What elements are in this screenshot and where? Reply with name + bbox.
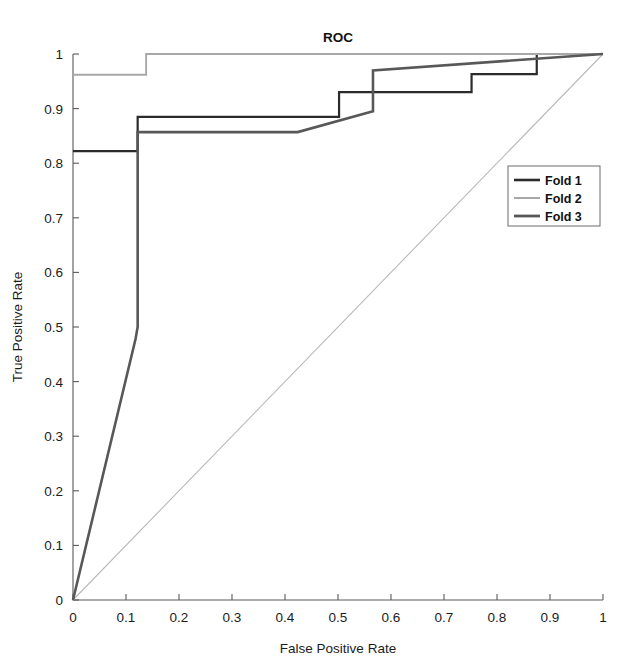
y-tick-label: 0.7 [44, 211, 63, 226]
y-tick-label: 0.1 [44, 538, 63, 553]
x-tick-label: 0.9 [541, 610, 560, 625]
y-tick-label: 0.4 [44, 375, 63, 390]
y-tick-label: 0.3 [44, 429, 63, 444]
x-axis-title: False Positive Rate [280, 641, 396, 656]
x-tick-label: 1 [599, 610, 607, 625]
chart-title: ROC [323, 30, 353, 45]
x-tick-label: 0.1 [117, 610, 136, 625]
x-tick-label: 0.8 [488, 610, 507, 625]
legend[interactable]: Fold 1Fold 2Fold 3 [508, 166, 600, 226]
y-axis-title: True Positive Rate [10, 272, 25, 383]
y-tick-label: 0.8 [44, 156, 63, 171]
roc-chart-figure: 00.10.20.30.40.50.60.70.80.9100.10.20.30… [0, 0, 637, 670]
y-tick-label: 0.5 [44, 320, 63, 335]
x-tick-label: 0 [69, 610, 77, 625]
y-tick-label: 1 [55, 47, 63, 62]
x-tick-label: 0.7 [435, 610, 454, 625]
y-tick-label: 0.2 [44, 484, 63, 499]
x-tick-label: 0.4 [276, 610, 295, 625]
x-tick-label: 0.2 [170, 610, 189, 625]
chance-diagonal-line [73, 54, 603, 600]
legend-label-1[interactable]: Fold 1 [545, 174, 582, 188]
tick-labels: 00.10.20.30.40.50.60.70.80.9100.10.20.30… [44, 47, 607, 625]
series-line-2 [73, 54, 603, 75]
x-tick-label: 0.5 [329, 610, 348, 625]
y-tick-label: 0.9 [44, 102, 63, 117]
roc-plot-svg: 00.10.20.30.40.50.60.70.80.9100.10.20.30… [0, 0, 637, 670]
legend-label-2[interactable]: Fold 2 [545, 192, 582, 206]
reference-diagonal [73, 54, 603, 600]
legend-label-3[interactable]: Fold 3 [545, 210, 582, 224]
y-tick-label: 0 [55, 593, 63, 608]
y-tick-label: 0.6 [44, 265, 63, 280]
x-tick-label: 0.6 [382, 610, 401, 625]
x-tick-label: 0.3 [223, 610, 242, 625]
